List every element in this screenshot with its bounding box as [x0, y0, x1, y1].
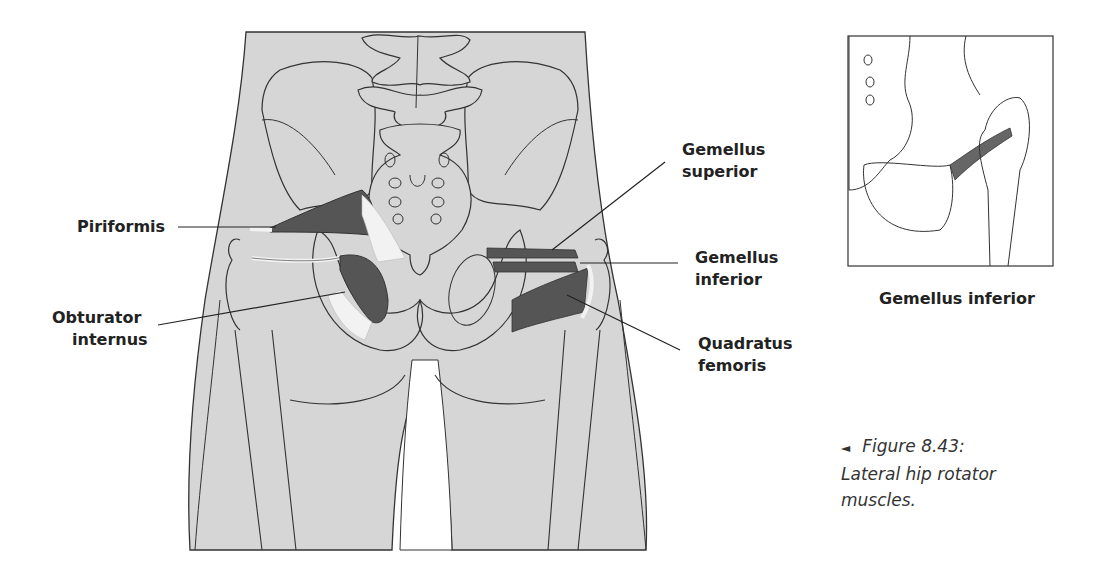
caption-line1: Figure 8.43: — [862, 436, 965, 456]
caption-line2: Lateral hip rotator — [841, 464, 996, 484]
label-gemellus-inferior-line1: Gemellus — [695, 247, 778, 268]
label-quadratus-femoris-line2: femoris — [698, 355, 766, 376]
inset-frame — [848, 36, 1053, 266]
label-obturator-internus-line2: internus — [72, 329, 148, 350]
label-obturator-internus-line1: Obturator — [52, 307, 141, 328]
caption-line3: muscles. — [841, 490, 916, 510]
label-quadratus-femoris-line1: Quadratus — [698, 333, 793, 354]
label-gemellus-superior-line1: Gemellus — [682, 139, 765, 160]
label-gemellus-superior-line2: superior — [682, 161, 757, 182]
inset-caption: Gemellus inferior — [879, 288, 1035, 309]
label-piriformis: Piriformis — [77, 216, 165, 237]
label-gemellus-inferior-line2: inferior — [695, 269, 762, 290]
arrow-left-icon: ◄ — [841, 441, 850, 455]
figure-caption: ◄Figure 8.43: Lateral hip rotator muscle… — [841, 433, 996, 513]
